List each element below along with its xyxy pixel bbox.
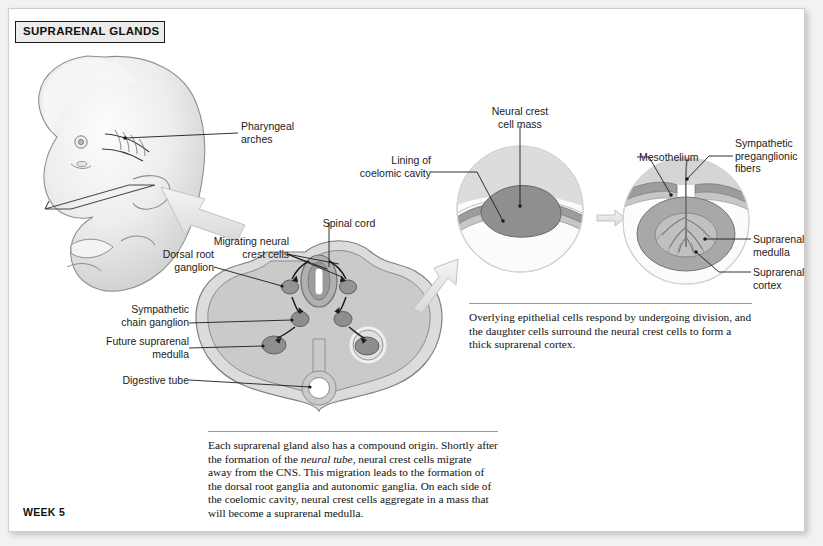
digestive-tube-lumen: [309, 378, 330, 399]
label-suprarenal-medulla: Suprarenal medulla: [753, 233, 804, 258]
label-dorsal-root-ganglion: Dorsal root ganglion: [89, 248, 214, 273]
label-sympathetic-preganglionic-fibers: Sympathetic preganglionic fibers: [735, 137, 797, 175]
label-mesothelium: Mesothelium: [639, 151, 699, 164]
caption-bottom-italic: neural tube: [301, 453, 353, 465]
caption-right-text: Overlying epithelial cells respond by un…: [469, 311, 751, 350]
label-lining-of-coelomic-cavity: Lining of coelomic cavity: [311, 154, 431, 179]
label-suprarenal-cortex: Suprarenal cortex: [753, 266, 804, 291]
sympathetic-chain-ganglion-left: [291, 312, 309, 327]
label-digestive-tube: Digestive tube: [69, 374, 189, 387]
sympathetic-chain-ganglion-right: [334, 312, 352, 327]
label-future-suprarenal-medulla: Future suprarenal medulla: [39, 335, 189, 360]
label-neural-crest-cell-mass: Neural crest cell mass: [470, 105, 570, 130]
label-spinal-cord: Spinal cord: [304, 217, 394, 230]
illustration-page: SUPRARENAL GLANDS WEEK 5: [8, 8, 805, 532]
caption-bottom: Each suprarenal gland also has a compoun…: [208, 439, 498, 521]
future-suprarenal-medulla-left: [262, 336, 286, 354]
figure-canvas: Pharyngeal arches Spinal cord Migrating …: [9, 9, 804, 531]
dorsal-root-ganglion-right: [340, 280, 357, 294]
label-sympathetic-chain-ganglion: Sympathetic chain ganglion: [49, 303, 189, 328]
label-pharyngeal-arches: Pharyngeal arches: [241, 120, 294, 145]
dorsal-root-ganglion-left: [282, 280, 299, 294]
caption-right: Overlying epithelial cells respond by un…: [469, 311, 752, 352]
block-arrow-between-details: [597, 210, 625, 226]
right-detail-circle: [621, 149, 751, 284]
future-suprarenal-medulla-right: [355, 337, 379, 355]
